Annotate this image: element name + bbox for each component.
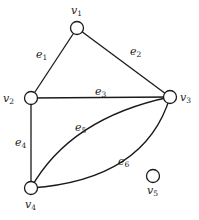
node-label-v2: v2 xyxy=(3,92,14,106)
node-label-v1: v1 xyxy=(71,4,82,18)
node-label-v3: v3 xyxy=(180,91,191,105)
node-v5 xyxy=(147,170,160,183)
edge-label-e1: e1 xyxy=(36,48,47,62)
edge-e2 xyxy=(77,28,170,97)
node-label-v4: v4 xyxy=(25,198,36,212)
edge-label-e2: e2 xyxy=(130,45,142,59)
node-v1 xyxy=(71,22,84,35)
node-v4 xyxy=(25,182,38,195)
node-v2 xyxy=(25,92,38,105)
node-v3 xyxy=(164,91,177,104)
edge-e1 xyxy=(31,28,77,98)
node-label-v5: v5 xyxy=(147,184,158,198)
graph-diagram: v1 v2 v3 v4 v5 e1 e2 e3 e4 e5 e6 xyxy=(0,0,199,220)
edge-label-e5: e5 xyxy=(75,121,87,135)
edge-label-e4: e4 xyxy=(15,136,27,150)
edge-label-e3: e3 xyxy=(95,85,107,99)
